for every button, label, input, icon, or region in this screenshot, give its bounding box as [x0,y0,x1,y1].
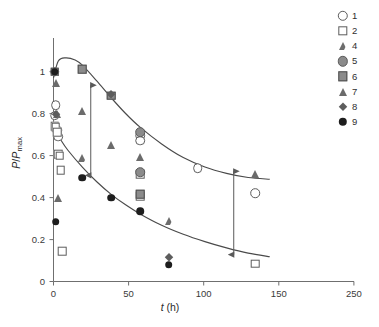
open-square-marker-icon [56,166,65,175]
open-triangle-inner [170,219,176,225]
gray-circle-marker-icon [337,56,347,66]
legend-item-7[interactable]: 7 [336,84,379,99]
data-point [52,192,64,204]
legend-label: 7 [352,87,357,97]
black-circle-marker-icon [52,218,60,226]
data-point [163,259,175,271]
y-axis-label-denominator: P [10,152,22,159]
filled-triangle-marker-icon [78,107,86,115]
legend-marker [336,115,349,128]
legend-marker [336,70,349,83]
legend-item-2[interactable]: 2 [336,23,379,38]
data-point [163,215,175,227]
data-point [56,245,68,257]
legend-marker [336,100,349,113]
open-triangle-inner [84,156,90,162]
legend: 12456789 [336,8,379,130]
data-point [54,150,66,162]
black-circle-marker-icon [107,194,115,202]
x-axis-label-variable: t [161,301,164,313]
y-axis-label: P/Pmax [10,123,24,183]
legend-marker [336,24,349,37]
filled-triangle-marker-icon [339,88,347,96]
filled-triangle-marker-icon [107,141,115,149]
gray-circle-marker-icon [135,128,145,138]
filled-triangle-marker-icon [136,153,144,161]
x-axis-label: t (h) [0,301,340,313]
filled-triangle-marker-icon [54,194,62,202]
data-point [134,166,146,178]
legend-label: 5 [352,56,357,66]
gray-circle-marker-icon [135,168,145,178]
open-triangle-marker-icon [165,217,173,225]
legend-marker [336,85,349,98]
filled-diamond-marker-icon [338,102,347,111]
y-axis-label-subscript: max [15,137,24,152]
data-point [105,139,117,151]
open-square-marker-icon [55,151,64,160]
black-circle-marker-icon [51,68,59,76]
data-point [76,63,88,75]
x-axis-label-unit: (h) [167,301,180,313]
legend-label: 2 [352,26,357,36]
data-point-layer [0,0,379,327]
data-point [134,151,146,163]
legend-item-1[interactable]: 1 [336,8,379,23]
legend-item-9[interactable]: 9 [336,114,379,129]
data-point [76,172,88,184]
legend-marker [336,9,349,22]
open-triangle-marker-icon [339,42,347,50]
open-circle-marker-icon [193,163,203,173]
black-circle-marker-icon [338,118,346,126]
y-axis-label-numerator: P [10,162,22,169]
data-point [249,168,261,180]
data-point [50,108,62,120]
open-circle-marker-icon [251,189,261,199]
filled-triangle-marker-icon [52,79,60,87]
open-triangle-inner [344,44,350,50]
legend-item-4[interactable]: 4 [336,38,379,53]
black-circle-marker-icon [79,174,87,182]
data-point [134,205,146,217]
open-square-marker-icon [53,128,62,137]
legend-marker [336,55,349,68]
data-point [105,192,117,204]
data-point [249,258,261,270]
legend-item-5[interactable]: 5 [336,54,379,69]
data-point [49,66,61,78]
legend-label: 4 [352,41,357,51]
data-point [50,77,62,89]
data-point [55,164,67,176]
gray-square-marker-icon [78,65,87,74]
filled-diamond-marker-icon [52,110,60,118]
legend-marker [336,39,349,52]
black-circle-marker-icon [136,207,144,215]
legend-label: 8 [352,102,357,112]
open-triangle-marker-icon [78,154,86,162]
open-square-marker-icon [338,26,347,35]
open-circle-marker-icon [337,10,347,20]
filled-triangle-marker-icon [251,170,259,178]
legend-item-8[interactable]: 8 [336,99,379,114]
legend-label: 1 [352,11,357,21]
data-point [50,216,62,228]
gray-square-marker-icon [136,190,145,199]
data-point [134,188,146,200]
chart-figure: 1 0.8 0.6 0.4 0.2 0 0 50 100 150 250 [0,0,379,327]
data-point [192,162,204,174]
data-point [76,152,88,164]
data-point [134,126,146,138]
data-point [249,187,261,199]
black-circle-marker-icon [165,261,173,269]
legend-label: 9 [352,117,357,127]
legend-item-6[interactable]: 6 [336,69,379,84]
filled-diamond-marker-icon [107,90,115,98]
data-point [76,105,88,117]
legend-label: 6 [352,72,357,82]
data-point [105,88,117,100]
open-square-marker-icon [58,247,67,256]
open-square-marker-icon [251,259,260,268]
gray-square-marker-icon [338,72,347,81]
data-point [51,126,63,138]
